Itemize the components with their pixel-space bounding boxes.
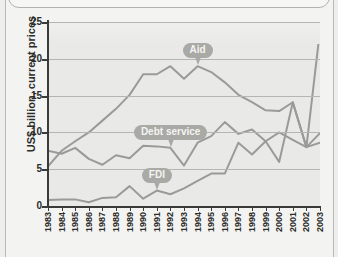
x-tick-label-1991: 1991: [152, 212, 162, 232]
x-tick-2001: [293, 206, 294, 211]
series-line-aid: [48, 66, 320, 166]
x-tick-label-2001: 2001: [288, 212, 298, 232]
x-tick-1995: [211, 206, 212, 211]
x-tick-label-1995: 1995: [206, 212, 216, 232]
chart-page: 0510152025 19831984198519861987198819891…: [0, 0, 338, 257]
y-tick-20: [42, 59, 48, 61]
x-tick-2002: [306, 206, 307, 211]
gridline-20: [48, 59, 320, 60]
gridline-15: [48, 96, 320, 97]
line-chart: 0510152025 19831984198519861987198819891…: [0, 0, 338, 257]
x-tick-1994: [198, 206, 199, 211]
x-tick-1993: [184, 206, 185, 211]
x-tick-label-1992: 1992: [165, 212, 175, 232]
x-tick-1999: [266, 206, 267, 211]
x-tick-1984: [62, 206, 63, 211]
y-tick-10: [42, 132, 48, 134]
x-tick-1983: [48, 206, 49, 211]
x-tick-1998: [252, 206, 253, 211]
x-tick-1990: [143, 206, 144, 211]
x-tick-1985: [75, 206, 76, 211]
x-tick-label-2002: 2002: [301, 212, 311, 232]
x-tick-1987: [102, 206, 103, 211]
series-line-fdi: [48, 30, 320, 202]
x-tick-2003: [320, 206, 321, 211]
y-tick-25: [42, 22, 48, 24]
x-tick-label-1986: 1986: [84, 212, 94, 232]
x-tick-1988: [116, 206, 117, 211]
plot-sheen: [48, 22, 320, 44]
y-tick-label-5: 5: [12, 164, 42, 174]
x-tick-label-1998: 1998: [247, 212, 257, 232]
callout-tail-icon: [168, 139, 174, 147]
x-tick-label-2000: 2000: [274, 212, 284, 232]
callout-tail-icon: [195, 57, 201, 65]
y-axis-line: [47, 20, 49, 208]
x-tick-label-1994: 1994: [193, 212, 203, 232]
x-tick-label-1988: 1988: [111, 212, 121, 232]
callout-tail-icon: [154, 182, 160, 190]
x-tick-1986: [89, 206, 90, 211]
x-tick-1992: [170, 206, 171, 211]
callout-aid: Aid: [183, 43, 213, 58]
callout-debt-service: Debt service: [134, 125, 207, 140]
x-tick-label-1987: 1987: [97, 212, 107, 232]
x-tick-label-1990: 1990: [138, 212, 148, 232]
x-tick-1991: [157, 206, 158, 211]
x-tick-label-1989: 1989: [125, 212, 135, 232]
x-tick-label-1997: 1997: [233, 212, 243, 232]
y-tick-15: [42, 96, 48, 98]
gridline-5: [48, 169, 320, 170]
x-tick-label-1983: 1983: [43, 212, 53, 232]
x-tick-2000: [279, 206, 280, 211]
x-tick-1997: [238, 206, 239, 211]
x-tick-1996: [225, 206, 226, 211]
y-tick-label-0: 0: [12, 201, 42, 211]
gridline-25: [48, 22, 320, 23]
x-tick-1989: [130, 206, 131, 211]
y-axis-title: US$ billion, current prices: [25, 9, 37, 159]
callout-fdi: FDI: [142, 168, 172, 183]
x-tick-label-2003: 2003: [315, 212, 325, 232]
x-tick-label-1984: 1984: [57, 212, 67, 232]
y-tick-5: [42, 169, 48, 171]
x-tick-label-1985: 1985: [70, 212, 80, 232]
x-tick-label-1996: 1996: [220, 212, 230, 232]
x-tick-label-1993: 1993: [179, 212, 189, 232]
x-tick-label-1999: 1999: [261, 212, 271, 232]
